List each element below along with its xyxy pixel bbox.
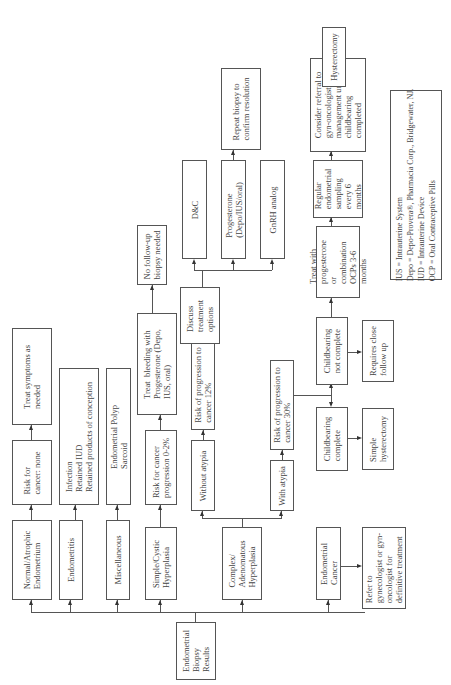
- endometritis-causes-label: Infection Retained IUD Retained products…: [64, 381, 94, 491]
- legend-text: IUS = Intrauterine System Depo = Depo-Pr…: [394, 89, 438, 282]
- simple-risk-box: Risk for cancer progression 0-2%: [145, 430, 177, 505]
- normal-risk-box: Risk for cancer: none: [12, 440, 52, 505]
- connector: [312, 395, 331, 396]
- arrow-head-icon: [192, 259, 196, 264]
- arrow-head-icon: [280, 450, 284, 455]
- category-miscellaneous-label: Miscellaneous: [113, 535, 123, 584]
- option-progesterone-box: Progesterone (Depo/IUS/oral): [221, 160, 246, 259]
- normal-action-label: Treat symptoms as needed: [22, 345, 42, 409]
- connector: [272, 263, 273, 270]
- requires-followup-box: Requires close follow up: [362, 320, 394, 382]
- arrow-head-icon: [158, 415, 162, 420]
- category-endometritis: Endometritis: [59, 520, 83, 600]
- root-label: Endometrial Biopsy Results: [181, 630, 211, 672]
- cancer-refer-label: Refer to gynecologist or gyn- oncologist…: [364, 533, 404, 603]
- category-simple-label: Simple/Cystic Hyperplasia: [151, 539, 171, 587]
- repeat-biopsy-box: Repeat biopsy to confirm resolution: [221, 68, 261, 150]
- hysterectomy-box: Hysterectomy: [322, 27, 346, 87]
- arrow-head-icon: [68, 600, 72, 605]
- category-complex-adenomatous-hyperplasia: Complex/ Adenomatous Hyperplasia: [222, 527, 262, 600]
- connector: [242, 518, 243, 527]
- connector: [294, 395, 312, 396]
- arrow-head-icon: [115, 505, 119, 510]
- regular-sampling-label: Regular endometrial sampling every 6 mon…: [313, 169, 363, 210]
- arrow-head-icon: [329, 298, 333, 303]
- arrow-head-icon: [329, 217, 333, 222]
- arrow-head-icon: [29, 505, 33, 510]
- arrow-head-icon: [200, 511, 204, 516]
- legend-box: IUS = Intrauterine System Depo = Depo-Pr…: [390, 90, 442, 280]
- regular-sampling-box: Regular endometrial sampling every 6 mon…: [313, 160, 363, 218]
- category-simple-cystic-hyperplasia: Simple/Cystic Hyperplasia: [145, 527, 177, 600]
- simple-followup-label: No follow-up biopsy needed: [142, 231, 162, 280]
- category-complex-label: Complex/ Adenomatous Hyperplasia: [227, 540, 257, 587]
- arrow-head-icon: [231, 150, 235, 155]
- normal-action-box: Treat symptoms as needed: [12, 328, 52, 425]
- arrow-head-icon: [270, 259, 274, 264]
- arrow-head-icon: [29, 425, 33, 430]
- category-normal-atrophic: Normal/Atrophic Endometrium: [12, 520, 52, 600]
- arrow-head-icon: [158, 600, 162, 605]
- simple-hysterectomy-label: Simple hysterectomy: [368, 416, 388, 462]
- simple-followup-box: No follow-up biopsy needed: [137, 225, 167, 285]
- normal-risk-label: Risk for cancer: none: [22, 451, 42, 494]
- category-endometrial-cancer: Endometrial Cancer: [316, 527, 341, 600]
- cancer-refer-box: Refer to gynecologist or gyn- oncologist…: [362, 527, 406, 609]
- option-gnrh-label: GnRH analog: [268, 186, 278, 233]
- simple-hysterectomy-box: Simple hysterectomy: [362, 408, 394, 470]
- option-progesterone-label: Progesterone (Depo/IUS/oral): [224, 182, 244, 238]
- requires-followup-label: Requires close follow up: [368, 326, 388, 376]
- without-atypia-box: Without atypia: [191, 440, 215, 511]
- without-atypia-label: Without atypia: [198, 450, 208, 500]
- category-endometritis-label: Endometritis: [66, 538, 76, 582]
- arrow-head-icon: [329, 151, 333, 156]
- arrow-head-icon: [158, 505, 162, 510]
- category-normal-label: Normal/Atrophic Endometrium: [22, 531, 42, 590]
- treat-progesterone-box: Treat with progesterone or combination O…: [316, 226, 360, 298]
- option-dc-label: D&C: [190, 200, 200, 218]
- connector-trunk: [31, 612, 365, 613]
- arrow-head-icon: [357, 564, 362, 568]
- with-atypia-label: With atypia: [277, 466, 287, 506]
- childbearing-complete-label: Childbearing complete: [322, 417, 342, 461]
- option-dc-box: D&C: [182, 160, 207, 259]
- with-atypia-risk-box: Risk of progression to cancer 30%: [270, 360, 294, 450]
- connector: [194, 263, 195, 270]
- arrow-head-icon: [29, 600, 33, 605]
- simple-treat-label: Treat bleeding with Progesterone (Depo, …: [142, 329, 172, 399]
- simple-risk-label: Risk for cancer progression 0-2%: [151, 437, 171, 497]
- connector: [341, 566, 358, 567]
- arrow-head-icon: [73, 505, 77, 510]
- misc-items-label: Endometrial Polyp Sarcoid: [109, 405, 129, 469]
- hysterectomy-label: Hysterectomy: [329, 33, 339, 81]
- childbearing-complete-box: Childbearing complete: [316, 407, 348, 471]
- endometritis-causes-box: Infection Retained IUD Retained products…: [59, 368, 99, 505]
- arrow-head-icon: [279, 511, 283, 516]
- without-atypia-risk-label: Risk of progression to cancer 12%: [193, 347, 213, 422]
- connector: [194, 270, 272, 271]
- arrow-head-icon: [150, 285, 154, 290]
- arrow-head-icon: [240, 600, 244, 605]
- root-endometrial-biopsy-results: Endometrial Biopsy Results: [176, 622, 216, 680]
- misc-items-box: Endometrial Polyp Sarcoid: [106, 368, 131, 505]
- connector: [233, 263, 234, 270]
- category-miscellaneous: Miscellaneous: [106, 520, 130, 600]
- arrow-head-icon: [357, 436, 362, 440]
- arrow-head-icon: [115, 600, 119, 605]
- with-atypia-box: With atypia: [270, 460, 294, 511]
- connector: [202, 518, 282, 519]
- childbearing-not-complete-label: Childbearing not complete: [322, 329, 342, 373]
- option-gnrh-box: GnRH analog: [260, 160, 285, 259]
- arrow-head-icon: [326, 600, 330, 605]
- discuss-options-box: Discuss treatment options: [180, 287, 220, 344]
- childbearing-not-complete-box: Childbearing not complete: [316, 317, 348, 385]
- arrow-head-icon: [231, 259, 235, 264]
- without-atypia-risk-box: Risk of progression to cancer 12%: [191, 340, 215, 430]
- with-atypia-risk-label: Risk of progression to cancer 30%: [272, 367, 292, 442]
- connector-root: [195, 612, 196, 622]
- simple-treat-box: Treat bleeding with Progesterone (Depo, …: [137, 313, 177, 415]
- arrow-head-icon: [201, 430, 205, 435]
- repeat-biopsy-label: Repeat biopsy to confirm resolution: [231, 77, 251, 140]
- treat-progesterone-label: Treat with progesterone or combination O…: [308, 240, 368, 284]
- arrow-head-icon: [357, 350, 362, 354]
